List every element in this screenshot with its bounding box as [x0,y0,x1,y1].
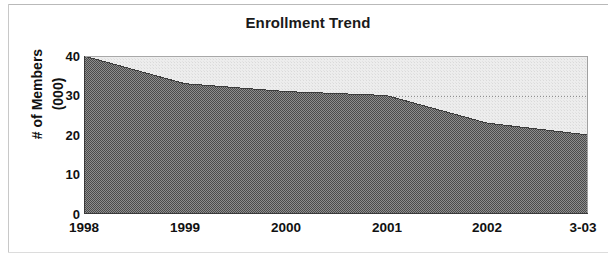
y-tick-label-10: 10 [46,168,80,181]
scan-border-left [8,4,9,252]
plot-area [84,56,588,214]
y-tick-label-20: 20 [46,129,80,142]
x-tick-label-2002: 2002 [452,220,522,236]
x-tick-label-1999: 1999 [150,220,220,236]
x-tick-label-1998: 1998 [49,220,119,236]
chart-title: Enrollment Trend [0,14,616,31]
area-chart-svg [84,56,588,214]
x-tick-label-2001: 2001 [352,220,422,236]
y-axis-tick-labels: 40 30 20 10 0 [44,0,80,257]
y-tick-label-40: 40 [46,50,80,63]
x-tick-label-2000: 2000 [251,220,321,236]
x-axis-tick-labels: 1998 1999 2000 2001 2002 3-03 [0,220,616,246]
x-tick-label-3-03: 3-03 [548,220,616,236]
scan-border-top [8,4,608,5]
chart-figure: Enrollment Trend # of Members (000) 40 3… [0,0,616,257]
y-tick-label-30: 30 [46,89,80,102]
scan-border-bottom [8,252,608,253]
